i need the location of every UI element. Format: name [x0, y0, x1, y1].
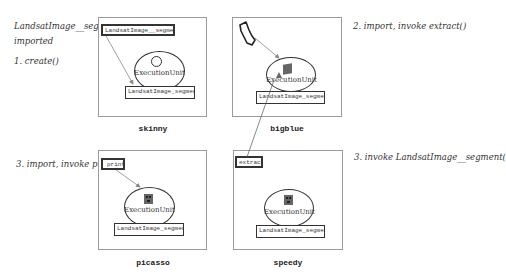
arrow-import-print — [116, 170, 140, 187]
link-bigblue-speedy — [247, 80, 274, 157]
arrow-create — [106, 36, 133, 84]
boot-object-icon — [240, 22, 255, 45]
arrow-import-extract — [255, 38, 279, 58]
